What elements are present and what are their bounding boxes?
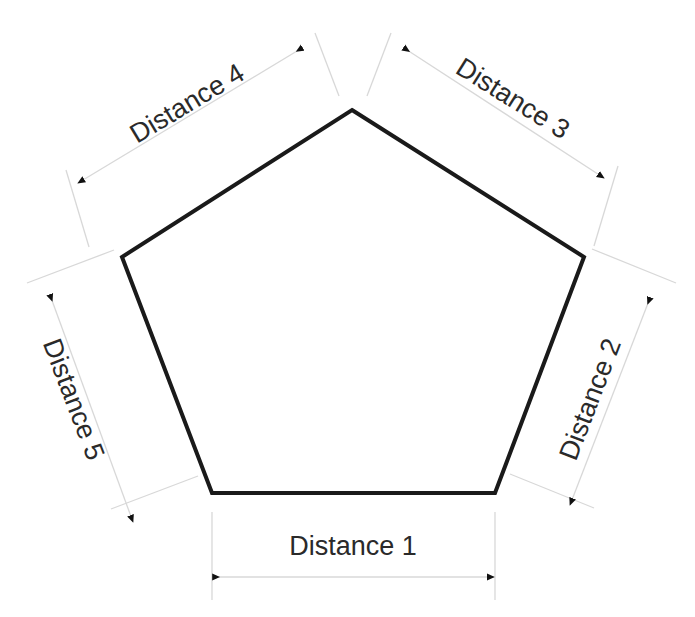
distance-3-extension-line-2 [594,166,618,246]
distance-4-label: Distance 4 [125,58,250,149]
pentagon-outline [122,110,584,493]
distance-5-extension-line-1 [27,250,114,283]
dimension-labels-group: Distance 1Distance 2Distance 3Distance 4… [37,52,627,561]
distance-4-extension-line-2 [66,170,89,247]
distance-3-label: Distance 3 [451,52,575,145]
distance-5-label: Distance 5 [37,334,111,464]
distance-5-extension-line-2 [111,476,198,509]
distance-1-label: Distance 1 [289,531,417,561]
distance-2-extension-line-2 [510,474,594,508]
diagram-canvas: Distance 1Distance 2Distance 3Distance 4… [0,0,695,617]
pentagon-distance-diagram: Distance 1Distance 2Distance 3Distance 4… [0,0,695,617]
distance-3-arrow-line [404,48,604,178]
distance-2-label: Distance 2 [553,334,627,464]
distance-2-extension-line-1 [592,249,676,283]
distance-3-extension-line-1 [367,33,391,96]
extension-lines-group [27,33,676,600]
distance-4-extension-line-1 [315,33,339,96]
